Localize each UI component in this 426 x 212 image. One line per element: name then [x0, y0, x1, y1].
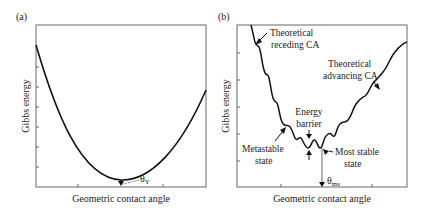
panel-b-receding-line1: Theoretical — [270, 28, 314, 38]
panel-a-theta-label: θY — [140, 173, 150, 186]
panel-b-barrier-line1: Energy — [295, 107, 323, 117]
panel-b-metastable-line1: Metastable — [242, 144, 284, 154]
panel-a-label: (a) — [16, 11, 27, 23]
panel-b-advancing-line1: Theoretical — [328, 59, 372, 69]
panel-b-moststable-line1: Most stable — [335, 147, 379, 157]
panel-b-xlabel: Geometric contact angle — [273, 193, 371, 204]
figure: (a) θY Geometric contact angle Gibbs ene… — [0, 0, 426, 212]
panel-b-theta-ms-label: θms — [327, 175, 340, 188]
panel-b-barrier-down-arrow-icon — [306, 134, 312, 139]
panel-b-moststable-arrow — [329, 151, 333, 152]
panel-a-min-arrow-icon — [118, 181, 124, 186]
panel-b-metastable-line2: state — [255, 156, 272, 166]
panel-a-frame — [36, 25, 206, 187]
panel-b-advancing-line2: advancing CA — [323, 71, 378, 81]
panel-a-ylabel: Gibbs energy — [20, 79, 31, 132]
panel-b-barrier-line2: barrier — [296, 119, 322, 129]
panel-b-ylabel: Gibbs energy — [220, 79, 231, 132]
panel-b: (b) Theoretical receding CA Theoretical … — [218, 11, 407, 204]
panel-b-barrier-up-arrow-icon — [306, 150, 312, 155]
panel-a: (a) θY Geometric contact angle Gibbs ene… — [16, 11, 206, 204]
panel-b-label: (b) — [218, 11, 230, 23]
panel-a-xlabel: Geometric contact angle — [72, 193, 170, 204]
panel-b-metastable-arrow — [275, 131, 283, 141]
panel-b-theta-ms-arrow-icon — [319, 182, 325, 187]
panel-b-receding-line2: receding CA — [271, 40, 319, 50]
panel-b-moststable-line2: state — [344, 159, 361, 169]
panel-b-moststable-arrowhead-icon — [323, 149, 329, 155]
panel-a-energy-curve — [36, 45, 206, 180]
